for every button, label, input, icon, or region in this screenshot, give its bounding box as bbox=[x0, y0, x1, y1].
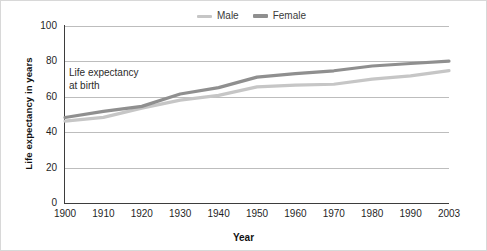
series-line-female bbox=[65, 61, 449, 117]
series-layer bbox=[1, 1, 487, 251]
life-expectancy-line-chart: Male Female Life expectancy in years Yea… bbox=[0, 0, 487, 251]
